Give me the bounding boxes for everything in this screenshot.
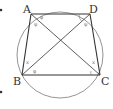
edge-dot-bottom (0, 91, 2, 94)
angle-mark-a-psi: ψ (34, 21, 38, 28)
diagonal-ac (31, 14, 100, 75)
point-label-c: C (101, 75, 109, 88)
diagram-canvas: φ ψ ψ x φ x A D B C (0, 0, 113, 109)
angle-mark-b-x: x (26, 59, 29, 65)
edge-dot-top (0, 9, 2, 12)
point-label-a: A (22, 3, 32, 16)
point-label-b: B (13, 75, 21, 88)
angle-mark-c-x: x (92, 59, 95, 65)
side-dc (90, 14, 100, 75)
diagonal-bd (22, 14, 90, 75)
angle-mark-b-phi: φ (33, 68, 37, 75)
point-label-d: D (89, 3, 98, 16)
side-ab (22, 14, 31, 75)
